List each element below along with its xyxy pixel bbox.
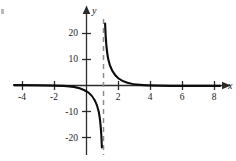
- function-graph-figure: -4 -2 2 4 6 8 20 10 -10 -20 y x: [0, 0, 236, 161]
- y-tick-label--20: -20: [52, 133, 78, 143]
- y-axis-arrowhead: [83, 6, 91, 15]
- x-tick-label--4: -4: [18, 92, 26, 102]
- x-tick-label-6: 6: [180, 92, 185, 102]
- x-tick-label-2: 2: [116, 92, 121, 102]
- y-tick-label-10: 10: [56, 54, 78, 64]
- curve-right-branch: [105, 24, 220, 86]
- y-tick-label--10: -10: [52, 107, 78, 117]
- x-tick-label-8: 8: [212, 92, 217, 102]
- y-axis-label: y: [92, 5, 96, 16]
- x-axis-label: x: [228, 80, 232, 91]
- x-tick-label-4: 4: [148, 92, 153, 102]
- y-tick-label-20: 20: [56, 28, 78, 38]
- x-tick-label--2: -2: [50, 92, 58, 102]
- graph-canvas: [0, 0, 236, 161]
